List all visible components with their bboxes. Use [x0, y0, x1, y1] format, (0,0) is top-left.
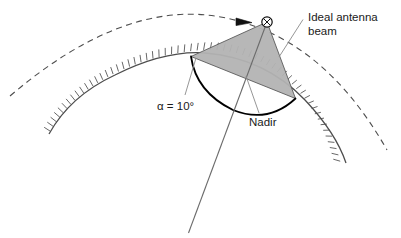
label-ideal-antenna-beam-line1: Ideal antenna	[308, 11, 378, 23]
leader-line-alpha	[185, 58, 196, 95]
label-nadir: Nadir	[249, 116, 277, 128]
orbit-direction-arrowhead	[236, 18, 252, 26]
label-ideal-antenna-beam-line2: beam	[308, 25, 337, 37]
diagram-canvas: Ideal antenna beam α = 10° Nadir	[0, 0, 401, 238]
satellite-marker	[262, 17, 272, 27]
label-alpha-angle: α = 10°	[157, 100, 194, 112]
leader-line-antenna-beam	[279, 20, 303, 58]
earth-surface-hatched-arc	[49, 53, 346, 163]
figure-root: Ideal antenna beam α = 10° Nadir	[0, 0, 401, 238]
